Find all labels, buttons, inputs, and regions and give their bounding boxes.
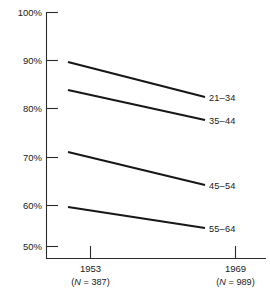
series-label-21-34: 21–34 [209, 93, 236, 103]
y-tick-label-100: 100% [18, 7, 43, 18]
series-label-45-54: 45–54 [209, 181, 236, 191]
series-label-55-64: 55–64 [209, 224, 236, 234]
chart-plot-area: 100% 90% 80% 70% 60% 50% 21–34 35–44 45–… [0, 0, 270, 300]
series-line-55-64 [68, 207, 205, 228]
x-tick-sublabel-1969: (N = 989) [216, 277, 255, 287]
series-line-45-54 [68, 152, 205, 185]
series-label-35-44: 35–44 [209, 116, 236, 126]
y-tick-label-80: 80% [23, 103, 43, 114]
y-tick-label-60: 60% [23, 200, 43, 211]
series-line-35-44 [68, 90, 205, 120]
x-tick-label-1969: 1969 [225, 263, 246, 274]
y-tick-label-90: 90% [23, 55, 43, 66]
y-tick-label-50: 50% [23, 241, 43, 252]
y-tick-label-70: 70% [23, 152, 43, 163]
x-tick-sublabel-1953: (N = 387) [71, 277, 110, 287]
x-tick-label-1953: 1953 [80, 263, 101, 274]
series-line-21-34 [68, 62, 205, 97]
line-chart: 100% 90% 80% 70% 60% 50% 21–34 35–44 45–… [0, 0, 270, 300]
